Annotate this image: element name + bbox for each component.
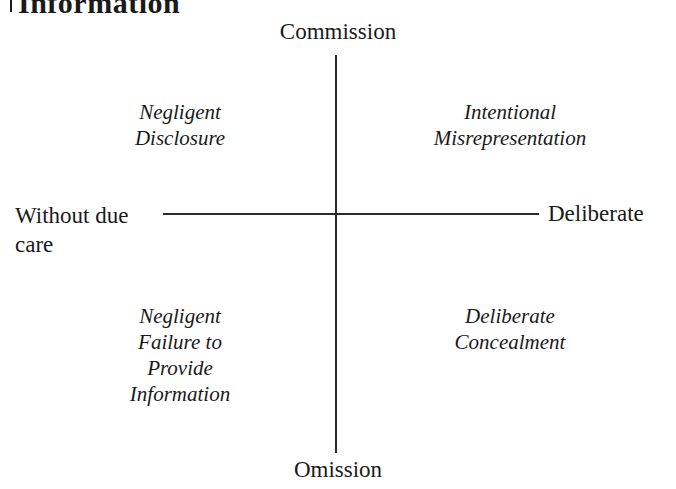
quadrant-line: Misrepresentation (405, 125, 615, 151)
quadrant-line: Concealment (415, 329, 605, 355)
quadrant-line: Intentional (405, 99, 615, 125)
axis-label-commission: Commission (268, 19, 408, 45)
axis-label-deliberate: Deliberate (548, 201, 644, 227)
quadrant-line: Provide (90, 355, 270, 381)
horizontal-axis-line (163, 213, 539, 215)
quadrant-negligent-disclosure: Negligent Disclosure (95, 99, 265, 151)
heading-marker (10, 0, 12, 12)
quadrant-line: Negligent (95, 99, 265, 125)
quadrant-intentional-misrepresentation: Intentional Misrepresentation (405, 99, 615, 151)
quadrant-line: Disclosure (95, 125, 265, 151)
axis-label-without-due-care: Without due care (15, 201, 160, 259)
section-heading: Information (18, 0, 180, 20)
vertical-axis-line (335, 55, 337, 453)
axis-label-omission: Omission (268, 457, 408, 483)
quadrant-deliberate-concealment: Deliberate Concealment (415, 303, 605, 355)
quadrant-line: Failure to (90, 329, 270, 355)
quadrant-line: Information (90, 381, 270, 407)
quadrant-negligent-failure-to-provide-information: Negligent Failure to Provide Information (90, 303, 270, 407)
quadrant-line: Deliberate (415, 303, 605, 329)
quadrant-line: Negligent (90, 303, 270, 329)
